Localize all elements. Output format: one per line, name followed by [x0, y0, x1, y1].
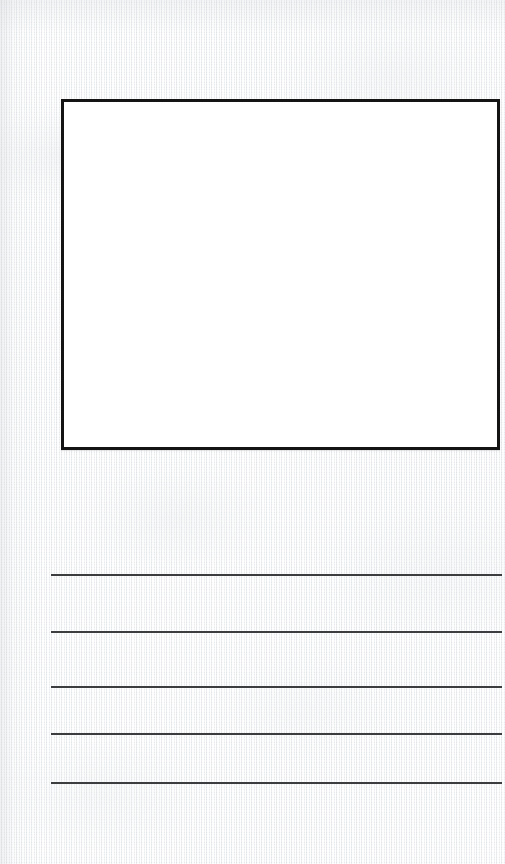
rule-line-1[interactable] [51, 574, 502, 576]
rule-line-5[interactable] [51, 782, 502, 784]
rule-line-4[interactable] [51, 733, 502, 735]
worksheet-page [0, 0, 505, 864]
rule-line-2[interactable] [51, 631, 502, 633]
drawing-box[interactable] [61, 99, 500, 450]
rule-line-3[interactable] [51, 686, 502, 688]
